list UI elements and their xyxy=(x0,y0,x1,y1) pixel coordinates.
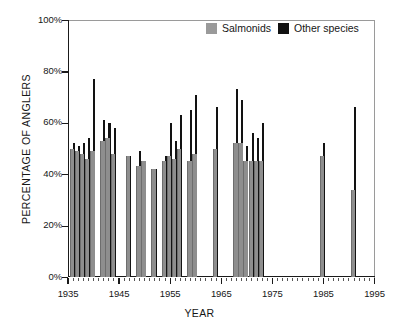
bar-salmonids-1991 xyxy=(351,190,355,277)
x-tick-1952 xyxy=(154,278,155,281)
chart-figure: PERCENTAGE OF ANGLERS 100% 80% 60% 40% 2… xyxy=(0,0,399,333)
y-tick-mark-60 xyxy=(62,123,68,124)
x-tick-1942 xyxy=(103,278,104,281)
x-tick-1981 xyxy=(302,278,303,281)
bar-salmonids-1936 xyxy=(70,149,74,278)
x-tick-1957 xyxy=(180,278,181,281)
x-tick-1991 xyxy=(354,278,355,281)
x-tick-1980 xyxy=(297,278,298,281)
x-tick-1941 xyxy=(98,278,99,281)
x-tick-1964 xyxy=(216,278,217,281)
y-tick-mark-40 xyxy=(62,174,68,175)
bar-salmonids-1949 xyxy=(136,166,140,277)
x-tick-1983 xyxy=(313,278,314,281)
bar-salmonids-1943 xyxy=(105,138,109,277)
x-axis-title: YEAR xyxy=(0,307,399,319)
y-tick-mark-100 xyxy=(62,20,68,21)
bar-salmonids-1959 xyxy=(187,161,191,277)
x-tick-1958 xyxy=(185,278,186,281)
y-tick-label-100: 100% xyxy=(38,15,62,25)
x-tick-1992 xyxy=(359,278,360,281)
y-tick-100: 100% xyxy=(18,15,62,25)
x-tick-1973 xyxy=(262,278,263,281)
x-tick-label-1985: 1985 xyxy=(301,288,345,299)
x-tick-1946 xyxy=(124,278,125,281)
x-tick-1947 xyxy=(129,278,130,281)
y-tick-label-0: 0% xyxy=(48,272,62,282)
x-tick-1939 xyxy=(88,278,89,281)
y-tick-label-20: 20% xyxy=(43,220,62,230)
x-tick-1989 xyxy=(343,278,344,281)
x-tick-1940 xyxy=(93,278,94,281)
bar-salmonids-1973 xyxy=(259,161,263,277)
x-tick-1963 xyxy=(211,278,212,281)
x-tick-1993 xyxy=(364,278,365,281)
y-axis-title: PERCENTAGE OF ANGLERS xyxy=(20,19,32,279)
bar-salmonids-1956 xyxy=(172,159,176,277)
y-tick-20: 20% xyxy=(18,220,62,230)
bar-salmonids-1985 xyxy=(320,156,324,277)
x-tick-1943 xyxy=(108,278,109,281)
x-tick-1985 xyxy=(323,278,324,284)
bar-salmonids-1954 xyxy=(162,161,166,277)
x-tick-1944 xyxy=(113,278,114,281)
bar-salmonids-1944 xyxy=(111,154,115,277)
x-tick-1936 xyxy=(73,278,74,281)
x-tick-1938 xyxy=(83,278,84,281)
x-tick-1960 xyxy=(195,278,196,281)
x-tick-1977 xyxy=(282,278,283,281)
x-tick-1937 xyxy=(78,278,79,281)
y-tick-80: 80% xyxy=(18,66,62,76)
bar-salmonids-1955 xyxy=(167,156,171,277)
gray-swatch-icon xyxy=(206,23,217,34)
x-tick-label-1935: 1935 xyxy=(46,288,90,299)
bar-salmonids-1942 xyxy=(100,141,104,277)
bar-salmonids-1952 xyxy=(151,169,155,277)
x-tick-label-1965: 1965 xyxy=(199,288,243,299)
x-tick-1978 xyxy=(287,278,288,281)
black-swatch-icon xyxy=(278,23,289,34)
x-tick-1950 xyxy=(144,278,145,281)
x-tick-1967 xyxy=(231,278,232,281)
legend-label-other-species: Other species xyxy=(294,22,359,34)
y-tick-mark-20 xyxy=(62,226,68,227)
bar-salmonids-1938 xyxy=(80,154,84,277)
x-tick-1949 xyxy=(139,278,140,281)
x-tick-label-1995: 1995 xyxy=(353,288,397,299)
bar-salmonids-1971 xyxy=(249,161,253,277)
y-tick-40: 40% xyxy=(18,169,62,179)
y-tick-label-40: 40% xyxy=(43,169,62,179)
x-tick-1988 xyxy=(338,278,339,281)
legend-label-salmonids: Salmonids xyxy=(222,22,271,34)
chart-legend: Salmonids Other species xyxy=(204,21,361,35)
x-tick-1953 xyxy=(159,278,160,281)
x-tick-1971 xyxy=(251,278,252,281)
x-tick-1976 xyxy=(277,278,278,281)
x-tick-label-1945: 1945 xyxy=(97,288,141,299)
bar-salmonids-1937 xyxy=(75,151,79,277)
x-tick-1974 xyxy=(267,278,268,281)
x-tick-1962 xyxy=(205,278,206,281)
x-tick-1954 xyxy=(165,278,166,281)
bar-salmonids-1969 xyxy=(238,143,242,277)
bar-salmonids-1970 xyxy=(243,161,247,277)
bar-salmonids-1960 xyxy=(192,154,196,277)
y-tick-mark-80 xyxy=(62,71,68,72)
bar-salmonids-1950 xyxy=(141,161,145,277)
legend-item-salmonids: Salmonids xyxy=(206,22,271,34)
x-tick-1955 xyxy=(170,278,171,284)
x-tick-1969 xyxy=(241,278,242,281)
x-tick-1975 xyxy=(272,278,273,284)
x-tick-1984 xyxy=(318,278,319,281)
y-tick-label-60: 60% xyxy=(43,117,62,127)
x-tick-1968 xyxy=(236,278,237,281)
bar-salmonids-1939 xyxy=(85,159,89,277)
x-tick-1951 xyxy=(149,278,150,281)
y-tick-60: 60% xyxy=(18,117,62,127)
y-tick-0: 0% xyxy=(18,272,62,282)
x-tick-1982 xyxy=(308,278,309,281)
bar-salmonids-1940 xyxy=(90,151,94,277)
x-tick-1961 xyxy=(200,278,201,281)
x-tick-label-1975: 1975 xyxy=(250,288,294,299)
bar-salmonids-1972 xyxy=(254,161,258,277)
